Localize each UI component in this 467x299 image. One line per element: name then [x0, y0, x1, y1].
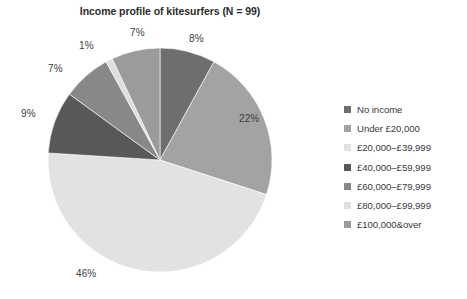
legend-item-label: £40,000–£59,999: [357, 162, 431, 173]
pie-svg: [0, 0, 330, 299]
legend-item-label: No income: [357, 104, 402, 115]
legend-item[interactable]: £20,000–£39,999: [344, 138, 467, 157]
legend-swatch-icon: [344, 125, 351, 132]
legend-item-label: £20,000–£39,999: [357, 142, 431, 153]
slice-percentage-label: 46%: [76, 268, 96, 279]
legend-item[interactable]: £40,000–£59,999: [344, 158, 467, 177]
legend-item-label: £80,000–£99,999: [357, 200, 431, 211]
legend: No incomeUnder £20,000£20,000–£39,999£40…: [344, 100, 467, 234]
legend-swatch-icon: [344, 183, 351, 190]
legend-swatch-icon: [344, 144, 351, 151]
legend-swatch-icon: [344, 164, 351, 171]
slice-percentage-label: 7%: [48, 63, 63, 74]
pie-chart-figure: Income profile of kitesurfers (N = 99) 8…: [0, 0, 467, 299]
legend-item[interactable]: £60,000–£79,999: [344, 177, 467, 196]
legend-item[interactable]: No income: [344, 100, 467, 119]
legend-item-label: £60,000–£79,999: [357, 181, 431, 192]
legend-swatch-icon: [344, 221, 351, 228]
legend-swatch-icon: [344, 202, 351, 209]
pie-slices-group: [48, 48, 272, 272]
legend-swatch-icon: [344, 106, 351, 113]
slice-percentage-label: 7%: [130, 27, 145, 38]
slice-percentage-label: 22%: [239, 113, 259, 124]
slice-percentage-label: 8%: [189, 33, 204, 44]
legend-item[interactable]: £100,000&over: [344, 215, 467, 234]
slice-percentage-label: 1%: [79, 40, 94, 51]
legend-item[interactable]: Under £20,000: [344, 119, 467, 138]
legend-item-label: £100,000&over: [357, 219, 421, 230]
pie-plot-area: 8%22%46%9%7%1%7%: [0, 0, 330, 299]
slice-percentage-label: 9%: [21, 108, 36, 119]
legend-item-label: Under £20,000: [357, 123, 420, 134]
legend-item[interactable]: £80,000–£99,999: [344, 196, 467, 215]
